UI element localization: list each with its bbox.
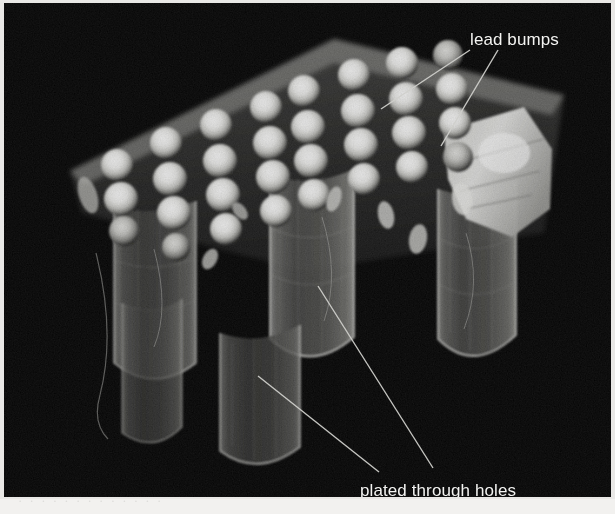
callout-label-lead-bumps: lead bumps xyxy=(470,30,559,50)
scanned-page-artifact-strip: · · · · · · · · · · · · · xyxy=(0,499,615,514)
xray-image-plate: lead bumps plated through holes xyxy=(4,3,611,497)
xray-ct-micrograph xyxy=(4,3,611,497)
scanned-page-artifact-text: · · · · · · · · · · · · · xyxy=(18,499,163,509)
figure-root: lead bumps plated through holes · · · · … xyxy=(0,0,615,514)
callout-label-plated-through-holes: plated through holes xyxy=(360,481,516,497)
film-grain-overlay xyxy=(4,3,611,497)
